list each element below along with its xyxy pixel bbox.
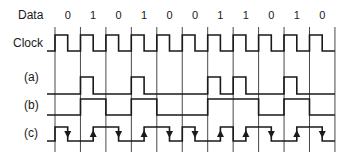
waveform-b-nrz [47, 99, 335, 115]
up-arrow-icon [242, 130, 249, 137]
down-arrow-icon [191, 131, 198, 138]
waveforms [0, 0, 350, 157]
down-arrow-icon [166, 131, 173, 138]
down-arrow-icon [268, 131, 275, 138]
up-arrow-icon [293, 130, 300, 137]
up-arrow-icon [217, 130, 224, 137]
waveform-c-manchester [47, 127, 335, 141]
clock-waveform [47, 35, 335, 51]
down-arrow-icon [319, 131, 326, 138]
waveform-a-rz [47, 77, 335, 94]
up-arrow-icon [90, 130, 97, 137]
timing-diagram: Data Clock (a) (b) (c) 01010011010 [0, 0, 350, 157]
up-arrow-icon [141, 130, 148, 137]
down-arrow-icon [115, 131, 122, 138]
down-arrow-icon [64, 131, 71, 138]
